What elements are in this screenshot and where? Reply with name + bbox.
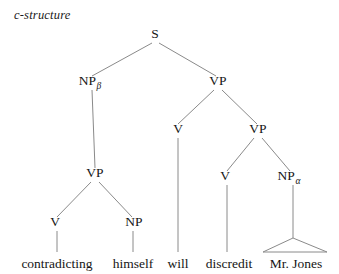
terminal-discredit: discredit [206, 256, 253, 271]
c-structure-figure: c-structure SNPβVPVVPVPVNPαVNP contradic… [0, 0, 339, 274]
tree-node-v1: V [173, 121, 183, 136]
terminal-mrjones: Mr. Jones [270, 256, 323, 271]
tree-edge-VP2-to-V2 [227, 138, 254, 171]
tree-edge-S-to-VP1 [159, 43, 216, 76]
terminal-contradicting: contradicting [21, 256, 92, 271]
mr-jones-triangle [263, 238, 327, 252]
tree-edge-VPleft-to-V3 [57, 182, 91, 217]
tree-nodes: SNPβVPVVPVPVNPαVNP [50, 26, 301, 229]
tree-edge-VPleft-to-NP3 [99, 182, 132, 217]
terminal-himself: himself [113, 256, 154, 271]
terminal-will: will [167, 256, 188, 271]
tree-edge-S-to-NPb [92, 43, 152, 76]
tree-node-s: S [151, 26, 159, 41]
tree-edge-VP2-to-NPa [262, 138, 290, 171]
tree-node-v2: V [220, 168, 230, 183]
tree-edge-VP1-to-VP2 [222, 90, 257, 124]
syntax-tree-diagram: SNPβVPVVPVPVNPαVNP contradictinghimselfw… [0, 0, 339, 274]
tree-node-vp1: VP [209, 73, 226, 88]
tree-node-np3: NP [125, 214, 142, 229]
tree-terminals: contradictinghimselfwilldiscreditMr. Jon… [21, 256, 322, 271]
tree-edge-NPb-to-VPleft [92, 90, 95, 168]
tree-node-npb: NPβ [79, 73, 102, 91]
tree-node-v3: V [50, 214, 60, 229]
tree-node-vp2: VP [249, 121, 266, 136]
tree-edge-VP1-to-V1 [178, 90, 214, 124]
tree-node-vpleft: VP [86, 165, 103, 180]
tree-node-npa: NPα [278, 168, 302, 186]
triangle-icon [263, 238, 327, 252]
